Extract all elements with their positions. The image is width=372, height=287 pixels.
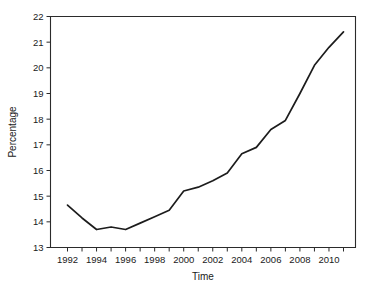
x-tick-label-2008: 2008 [289,254,310,265]
x-tick-label-2010: 2010 [318,254,339,265]
x-tick-label-2006: 2006 [260,254,281,265]
chart-background [0,0,372,287]
y-tick-label-18: 18 [33,114,44,125]
chart-container: 13141516171819202122 1992199419961998200… [0,0,372,287]
y-tick-label-20: 20 [33,62,44,73]
y-tick-label-21: 21 [33,37,44,48]
y-tick-label-19: 19 [33,88,44,99]
x-tick-label-1992: 1992 [57,254,78,265]
y-tick-label-22: 22 [33,11,44,22]
y-axis-title: Percentage [7,106,18,158]
x-tick-label-1998: 1998 [144,254,165,265]
x-tick-label-1996: 1996 [115,254,136,265]
x-tick-label-2004: 2004 [231,254,252,265]
x-tick-label-1994: 1994 [86,254,107,265]
y-tick-label-15: 15 [33,191,44,202]
y-tick-label-13: 13 [33,242,44,253]
x-tick-label-2002: 2002 [202,254,223,265]
y-tick-label-14: 14 [33,216,44,227]
y-tick-label-17: 17 [33,139,44,150]
line-chart: 13141516171819202122 1992199419961998200… [0,0,372,287]
y-tick-label-16: 16 [33,165,44,176]
x-axis-title: Time [192,271,214,282]
x-tick-label-2000: 2000 [173,254,194,265]
